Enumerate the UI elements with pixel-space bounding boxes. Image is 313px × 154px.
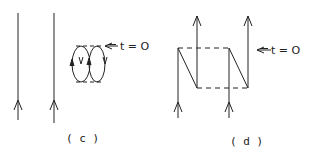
- panel-d: [174, 16, 271, 118]
- arrow-up-icon: [70, 59, 74, 66]
- arrow-up-icon: [87, 58, 91, 65]
- arrow-down-icon: [79, 57, 83, 64]
- t-zero-label-d: t = O: [271, 44, 301, 57]
- caption-d: ( d ): [230, 135, 263, 148]
- panel-c: [14, 13, 118, 123]
- loop-right: [89, 46, 105, 82]
- fermion-diagonal-1: [178, 48, 197, 88]
- t-zero-label-c: t = O: [120, 40, 150, 53]
- diagram-canvas: t = O t = O ( c ) ( d ): [0, 0, 313, 154]
- caption-c: ( c ): [66, 132, 99, 145]
- fermion-diagonal-2: [229, 48, 248, 88]
